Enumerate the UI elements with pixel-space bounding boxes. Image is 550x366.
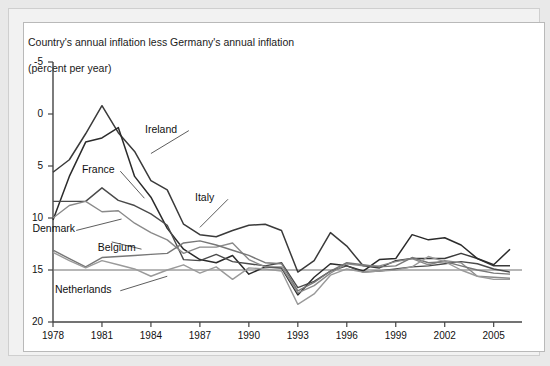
x-axis-tick-label: 1987 [180,330,220,341]
x-axis-tick-label: 2002 [425,330,465,341]
series-label-ireland: Ireland [145,123,177,135]
y-axis-tick-label: 10 [17,212,43,223]
y-axis-tick-label: 15 [17,264,43,275]
chart-title-line1: Country's annual inflation less Germany'… [28,36,294,48]
x-axis-tick-label: 1993 [278,330,318,341]
x-axis-tick-label: 1990 [229,330,269,341]
chart-title: Country's annual inflation less Germany'… [28,23,488,75]
x-axis-tick-label: 1978 [33,330,73,341]
x-axis-tick-label: 1999 [376,330,416,341]
x-axis-tick-label: 1996 [327,330,367,341]
series-label-netherlands: Netherlands [55,283,112,295]
series-label-france: France [82,163,115,175]
y-axis-tick-label: 5 [17,160,43,171]
y-axis-tick-label: 20 [17,316,43,327]
y-axis-tick-label: -5 [17,56,43,67]
x-axis-tick-label: 1981 [82,330,122,341]
x-axis-tick-label: 1984 [131,330,171,341]
series-label-belgium: Belgium [98,241,136,253]
y-axis-tick-label: 0 [17,108,43,119]
x-axis-tick-label: 2005 [474,330,514,341]
series-label-italy: Italy [195,191,214,203]
series-label-denmark: Denmark [32,222,75,234]
